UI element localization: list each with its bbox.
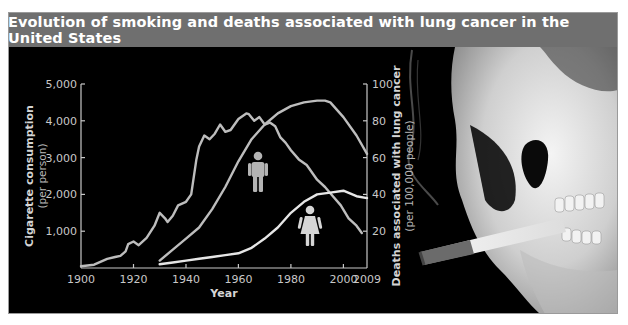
figure-frame bbox=[8, 12, 618, 314]
